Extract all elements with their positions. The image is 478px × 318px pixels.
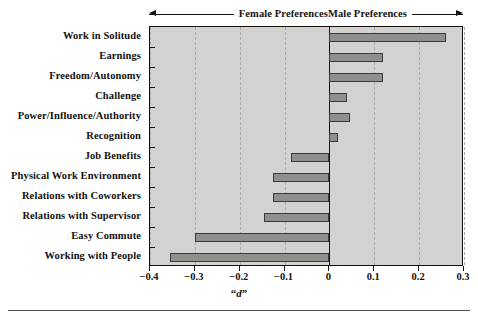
x-axis-tick-label: 0.3: [456, 272, 469, 283]
y-axis-tick: [150, 67, 155, 68]
gridline: [419, 27, 421, 265]
bar: [329, 73, 383, 82]
bar: [329, 33, 446, 42]
y-axis-tick: [150, 87, 155, 88]
x-axis-title: “d”: [0, 288, 478, 299]
zero-reference-line: [329, 27, 330, 265]
y-axis-tick: [150, 47, 155, 48]
y-axis-tick: [150, 107, 155, 108]
x-axis-tick-label: 0: [326, 272, 331, 283]
y-axis-tick: [150, 127, 155, 128]
female-preference-direction: Female Preferences: [149, 4, 328, 24]
male-preference-direction: Male Preferences: [328, 4, 463, 24]
bar: [273, 173, 329, 182]
y-axis-tick: [150, 227, 155, 228]
arrow-right-icon: [412, 14, 463, 15]
x-axis-tick-label: −0.3: [184, 272, 203, 283]
bar: [170, 253, 329, 262]
y-axis-tick: [150, 147, 155, 148]
x-axis-tick-labels: −0.4−0.3−0.2−0.100.10.20.3: [0, 272, 478, 286]
bar: [264, 213, 329, 222]
gridline: [374, 27, 376, 265]
y-axis-label: Earnings: [99, 51, 141, 62]
y-axis-label: Challenge: [95, 91, 141, 102]
y-axis-label: Job Benefits: [85, 151, 141, 162]
y-axis-label: Relations with Coworkers: [22, 191, 141, 202]
gridline: [195, 27, 197, 265]
gridline: [464, 27, 466, 265]
x-axis-tick-label: −0.4: [139, 272, 158, 283]
x-axis-tick-label: −0.2: [229, 272, 248, 283]
y-axis-category-labels: Work in SolitudeEarningsFreedom/Autonomy…: [0, 26, 145, 266]
x-axis-tick-label: 0.1: [367, 272, 380, 283]
y-axis-tick: [150, 187, 155, 188]
y-axis-label: Physical Work Environment: [11, 171, 141, 182]
preference-direction-header: Female Preferences Male Preferences: [149, 4, 463, 24]
bar: [273, 193, 329, 202]
y-axis-label: Work in Solitude: [63, 31, 141, 42]
y-axis-label: Relations with Supervisor: [22, 211, 141, 222]
figure-bar-chart-gender-job-preferences: Female Preferences Male Preferences Work…: [0, 0, 478, 318]
bar: [329, 53, 383, 62]
y-axis-tick: [150, 207, 155, 208]
arrow-left-icon: [149, 14, 234, 15]
plot-area: [149, 26, 463, 266]
bar: [329, 113, 349, 122]
y-axis-label: Working with People: [45, 251, 141, 262]
x-axis-title-close-quote: ”: [242, 287, 248, 299]
y-axis-tick: [150, 167, 155, 168]
gridline: [150, 27, 152, 265]
bar: [291, 153, 329, 162]
bar: [195, 233, 330, 242]
footer-divider: [8, 310, 470, 311]
male-preferences-label: Male Preferences: [328, 9, 407, 20]
y-axis-label: Power/Influence/Authority: [18, 111, 141, 122]
bar: [329, 133, 338, 142]
y-axis-label: Recognition: [86, 131, 141, 142]
female-preferences-label: Female Preferences: [239, 9, 328, 20]
x-axis-tick-label: 0.2: [412, 272, 425, 283]
y-axis-tick: [150, 247, 155, 248]
bar: [329, 93, 347, 102]
x-axis-tick-label: −0.1: [274, 272, 293, 283]
gridline: [240, 27, 242, 265]
gridline: [285, 27, 287, 265]
y-axis-label: Easy Commute: [71, 231, 141, 242]
y-axis-label: Freedom/Autonomy: [49, 71, 141, 82]
